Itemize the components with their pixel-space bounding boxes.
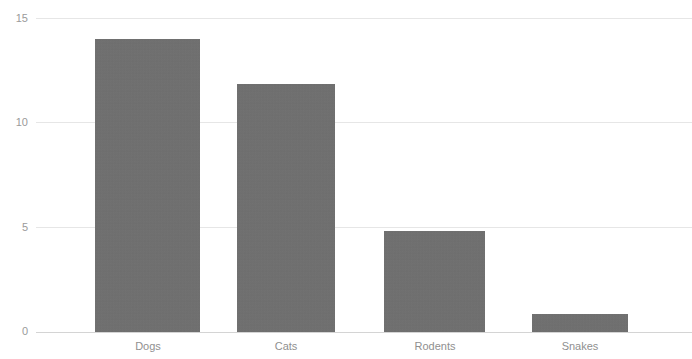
bar-rodents[interactable] [384,231,485,332]
x-axis-label-dogs: Dogs [98,340,198,352]
gridline-0 [36,332,692,333]
x-axis-label-snakes: Snakes [530,340,630,352]
plot-area: 15 10 5 0 Dogs Cats Rodents Snakes [0,0,692,359]
y-axis-tick-5: 5 [0,222,28,233]
bar-dogs[interactable] [95,39,200,332]
x-axis-label-rodents: Rodents [385,340,485,352]
bar-cats[interactable] [237,84,335,332]
y-axis-tick-0: 0 [0,326,28,337]
bar-snakes[interactable] [532,314,628,332]
y-axis-tick-15: 15 [0,13,28,24]
gridline-15 [36,18,692,19]
x-axis-label-cats: Cats [236,340,336,352]
y-axis-tick-10: 10 [0,117,28,128]
bar-chart: 15 10 5 0 Dogs Cats Rodents Snakes [0,0,692,359]
